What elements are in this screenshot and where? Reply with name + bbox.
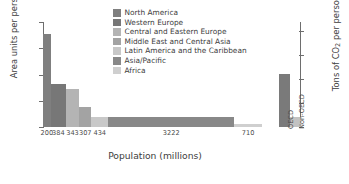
legend-swatch-icon bbox=[113, 9, 121, 17]
bar-north-america bbox=[43, 34, 51, 127]
legend-item: North America bbox=[113, 8, 247, 18]
legend-swatch-icon bbox=[113, 19, 121, 27]
chart-legend: North AmericaWestern EuropeCentral and E… bbox=[113, 8, 247, 75]
legend-item-label: North America bbox=[125, 8, 179, 18]
legend-swatch-icon bbox=[113, 57, 121, 65]
legend-swatch-icon bbox=[113, 28, 121, 36]
legend-item-label: Africa bbox=[125, 66, 146, 76]
y-axis-left-title: Area units per person bbox=[9, 0, 19, 91]
legend-item-label: Middle East and Central Asia bbox=[125, 37, 231, 47]
x-tick-label: 710 bbox=[228, 129, 268, 137]
bar-latin-america-and-the-caribbean bbox=[91, 117, 108, 127]
bar-africa bbox=[234, 124, 262, 127]
legend-item-label: Asia/Pacific bbox=[125, 56, 166, 66]
legend-item: Asia/Pacific bbox=[113, 56, 247, 66]
legend-item: Western Europe bbox=[113, 18, 247, 28]
y-tick-right bbox=[299, 55, 304, 56]
y-axis-right-title-post: per person per year bbox=[331, 0, 341, 43]
y-tick-right bbox=[299, 79, 304, 80]
legend-item: Central and Eastern Europe bbox=[113, 27, 247, 37]
bar-asia-pacific bbox=[108, 117, 234, 127]
legend-swatch-icon bbox=[113, 47, 121, 55]
bar-middle-east-and-central-asia bbox=[79, 107, 91, 127]
legend-item-label: Latin America and the Caribbean bbox=[125, 46, 247, 56]
x-axis-title: Population (millions) bbox=[40, 150, 270, 161]
chart-figure: Area units per person Tons of CO2 per pe… bbox=[0, 0, 349, 184]
y-tick-left bbox=[39, 22, 44, 23]
x-tick-label: 434 bbox=[80, 129, 120, 137]
legend-item-label: Central and Eastern Europe bbox=[125, 27, 227, 37]
legend-item-label: Western Europe bbox=[125, 18, 184, 28]
y-tick-right bbox=[299, 31, 304, 32]
y-axis-right-title-pre: Tons of CO bbox=[331, 47, 341, 91]
co2-subscript: 2 bbox=[334, 43, 342, 47]
legend-swatch-icon bbox=[113, 67, 121, 75]
legend-item: Latin America and the Caribbean bbox=[113, 46, 247, 56]
x-tick-label-rotated: OECD bbox=[287, 110, 295, 129]
bar-western-europe bbox=[51, 84, 66, 127]
bar-central-and-eastern-europe bbox=[66, 89, 79, 127]
legend-item: Africa bbox=[113, 66, 247, 76]
y-tick-left bbox=[39, 127, 44, 128]
legend-swatch-icon bbox=[113, 38, 121, 46]
x-tick-label-rotated: Non-OECD bbox=[298, 94, 306, 129]
y-axis-right-title: Tons of CO2 per person per year bbox=[331, 0, 342, 91]
x-tick-label: 3222 bbox=[151, 129, 191, 137]
legend-item: Middle East and Central Asia bbox=[113, 37, 247, 47]
